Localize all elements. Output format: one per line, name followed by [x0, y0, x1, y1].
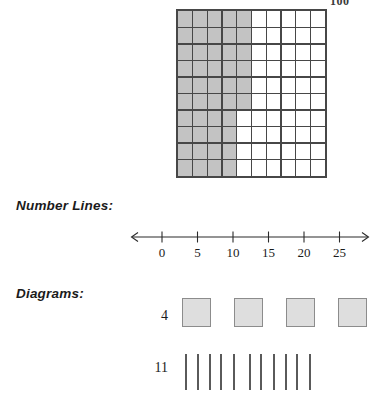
diagram-square — [234, 298, 263, 327]
diagram-row-label-tally: 11 — [138, 360, 168, 376]
grid-cell — [208, 160, 221, 175]
grid-cell — [178, 28, 191, 43]
grid-cell — [252, 94, 265, 109]
grid-cell — [237, 28, 250, 43]
grid-cell — [311, 61, 324, 76]
grid-cell — [223, 61, 236, 76]
diagram-squares-row — [182, 298, 367, 334]
number-line-tick-label: 5 — [194, 245, 201, 261]
grid-cell — [252, 78, 265, 93]
grid-cell — [193, 78, 206, 93]
grid-cell — [208, 144, 221, 159]
grid-cell — [178, 11, 191, 26]
grid-cell — [296, 28, 309, 43]
grid-cell — [208, 127, 221, 142]
grid-cell — [208, 78, 221, 93]
grid-cell — [223, 127, 236, 142]
grid-cell — [282, 28, 295, 43]
grid-cell — [296, 160, 309, 175]
grid-cell — [252, 127, 265, 142]
grid-cell — [296, 144, 309, 159]
grid-cell — [267, 144, 280, 159]
grid-cell — [223, 45, 236, 60]
grid-cell — [311, 45, 324, 60]
grid-cell — [252, 28, 265, 43]
grid-cell — [282, 127, 295, 142]
tally-mark — [260, 354, 262, 390]
grid-cell — [237, 78, 250, 93]
grid-cell — [237, 127, 250, 142]
grid-cell — [267, 94, 280, 109]
tally-mark — [233, 354, 235, 390]
diagram-square — [286, 298, 315, 327]
grid-cell — [178, 45, 191, 60]
grid-cell — [311, 127, 324, 142]
grid-cell — [267, 45, 280, 60]
tally-mark — [296, 354, 298, 390]
grid-cell — [237, 144, 250, 159]
number-line-tick-label: 15 — [262, 245, 275, 261]
grid-cell — [311, 160, 324, 175]
tally-mark — [285, 354, 287, 390]
grid-cell — [311, 144, 324, 159]
grid-cell — [282, 78, 295, 93]
grid-cell — [267, 127, 280, 142]
grid-cell — [311, 28, 324, 43]
grid-cell — [223, 28, 236, 43]
grid-cell — [208, 45, 221, 60]
tally-mark — [197, 354, 199, 390]
grid-cell — [237, 11, 250, 26]
grid-cell — [178, 127, 191, 142]
hundred-grid-container — [176, 9, 327, 178]
grid-cell — [282, 144, 295, 159]
grid-cell — [193, 28, 206, 43]
grid-cell — [296, 94, 309, 109]
number-line-tick-label: 10 — [227, 245, 240, 261]
grid-cell — [223, 144, 236, 159]
grid-cell — [252, 61, 265, 76]
tally-mark — [273, 354, 275, 390]
grid-cell — [208, 28, 221, 43]
grid-cell — [208, 11, 221, 26]
grid-cell — [282, 45, 295, 60]
grid-cell — [296, 111, 309, 126]
grid-cell — [208, 111, 221, 126]
section-label-diagrams: Diagrams: — [16, 286, 84, 301]
grid-cell — [267, 11, 280, 26]
grid-cell — [178, 111, 191, 126]
grid-cell — [267, 111, 280, 126]
grid-cell — [282, 160, 295, 175]
grid-cell — [252, 111, 265, 126]
grid-cell — [193, 127, 206, 142]
tally-mark — [209, 354, 211, 390]
grid-cell — [237, 94, 250, 109]
grid-cell — [208, 61, 221, 76]
grid-cell — [296, 127, 309, 142]
grid-cell — [208, 94, 221, 109]
grid-cell — [223, 11, 236, 26]
grid-cell — [178, 61, 191, 76]
tally-mark — [249, 354, 251, 390]
number-line-tick-label: 25 — [333, 245, 346, 261]
grid-cell — [311, 78, 324, 93]
tally-mark — [185, 354, 187, 390]
grid-cell — [267, 78, 280, 93]
grid-cell — [237, 160, 250, 175]
grid-cell — [237, 61, 250, 76]
section-label-number-lines: Number Lines: — [16, 198, 113, 213]
grid-cell — [267, 160, 280, 175]
grid-cell — [252, 144, 265, 159]
grid-cell — [296, 78, 309, 93]
grid-cell — [267, 61, 280, 76]
grid-cell — [178, 160, 191, 175]
grid-cell — [223, 160, 236, 175]
grid-cell — [282, 94, 295, 109]
grid-cell — [178, 78, 191, 93]
grid-cell — [223, 94, 236, 109]
top-caption: 100 — [330, 0, 350, 9]
diagram-square — [338, 298, 367, 327]
grid-cell — [296, 45, 309, 60]
grid-cell — [311, 11, 324, 26]
grid-cell — [296, 11, 309, 26]
grid-cell — [193, 94, 206, 109]
